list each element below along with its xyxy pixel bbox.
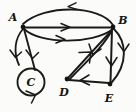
edge-b-to-e-arc: [112, 29, 129, 82]
node-label-a: A: [8, 11, 18, 24]
node-dot-b[interactable]: [111, 25, 116, 30]
node-dot-a[interactable]: [21, 25, 26, 30]
node-label-e: E: [104, 92, 114, 105]
node-dot-e[interactable]: [108, 82, 113, 87]
edge-d-to-b: [68, 30, 112, 78]
edge-a-to-b-arc: [24, 29, 113, 43]
node-dot-d[interactable]: [65, 77, 70, 82]
node-label-d: D: [58, 86, 69, 99]
diagram-canvas: A B C D E: [0, 0, 136, 112]
edge-e-to-d: [69, 75, 109, 85]
directed-graph-figure: A B C D E: [0, 0, 136, 112]
edge-b-to-a: [23, 3, 113, 25]
edge-a-to-c-arc: [10, 29, 23, 65]
node-label-b: B: [117, 14, 127, 27]
edge-a-to-b-straight: [24, 24, 112, 32]
node-label-c: C: [27, 76, 36, 89]
